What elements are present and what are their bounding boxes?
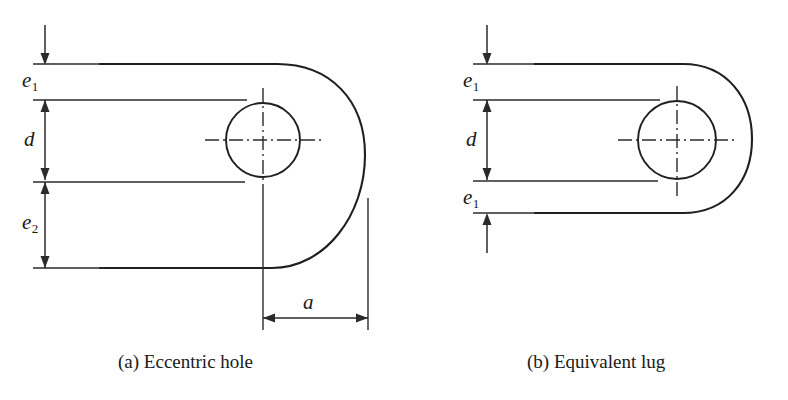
caption-panel-b: (b) Equivalent lug bbox=[527, 352, 665, 371]
lug-outline-b bbox=[535, 64, 752, 213]
dim-label-d-b: d bbox=[466, 129, 477, 150]
dim-label-e1-top-b: e1 bbox=[463, 70, 479, 93]
lug-outline-a bbox=[100, 64, 365, 268]
caption-panel-a: (a) Eccentric hole bbox=[118, 352, 253, 371]
panel-b-geometry bbox=[473, 25, 752, 253]
dim-a-arrowhead-right bbox=[356, 314, 368, 323]
dim-a-arrowhead-left bbox=[263, 314, 275, 323]
lug-diagram-canvas bbox=[0, 0, 788, 400]
dim-label-e1-bottom-b: e1 bbox=[463, 187, 479, 210]
dim-label-e1-a: e1 bbox=[22, 70, 38, 93]
dim-e2-arrowhead-top-a bbox=[41, 182, 50, 194]
dim-label-a: a bbox=[303, 292, 314, 313]
dim-d-arrowhead-bottom-b bbox=[483, 168, 492, 180]
dim-d-arrowhead-bottom-a bbox=[41, 168, 50, 180]
dim-d-arrowhead-top-a bbox=[41, 100, 50, 112]
dim-e2-arrowhead-bottom-a bbox=[41, 256, 50, 268]
panel-a-geometry bbox=[33, 25, 368, 330]
dim-label-e2-a: e2 bbox=[22, 212, 38, 235]
figure-root: e1 d e2 a e1 d e1 (a) Eccentric hole (b)… bbox=[0, 0, 788, 400]
dim-d-arrowhead-top-b bbox=[483, 100, 492, 112]
dim-label-d-a: d bbox=[24, 129, 35, 150]
